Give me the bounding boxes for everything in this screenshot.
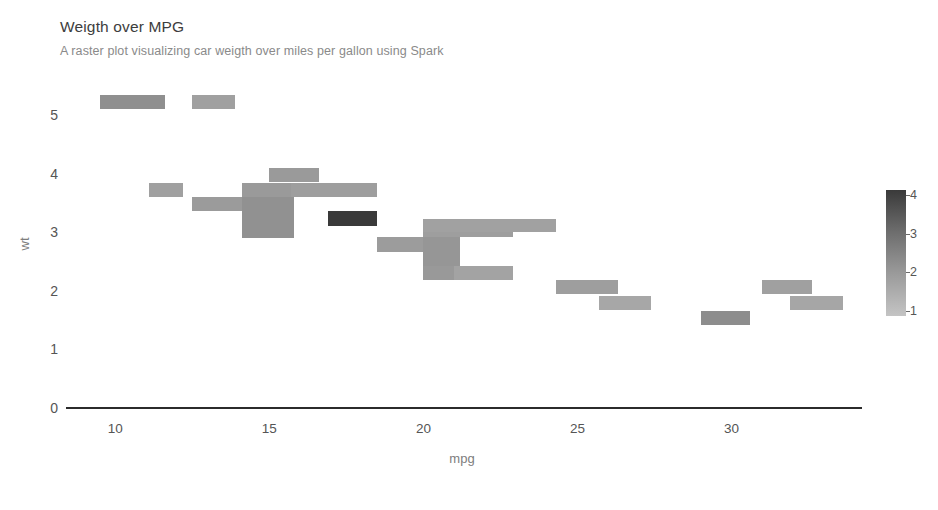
raster-cell: [599, 296, 651, 310]
raster-cell: [192, 95, 235, 109]
raster-cell: [701, 311, 750, 325]
page-title: Weigth over MPG: [60, 18, 184, 36]
legend-tick-label: 2: [910, 265, 917, 279]
x-tick-label: 10: [108, 421, 123, 436]
raster-cell: [790, 296, 842, 310]
chart-page: Weigth over MPG A raster plot visualizin…: [0, 0, 938, 510]
legend-tick-label: 1: [910, 304, 917, 318]
y-tick-label: 2: [50, 283, 58, 299]
raster-cell: [377, 237, 426, 252]
x-tick-label: 15: [262, 421, 277, 436]
x-tick-label: 25: [570, 421, 585, 436]
raster-cell: [762, 280, 811, 293]
raster-cell: [242, 197, 294, 238]
plot-area: [66, 80, 861, 408]
raster-cell: [423, 219, 556, 232]
y-tick-label: 3: [50, 224, 58, 240]
x-tick-label: 30: [724, 421, 739, 436]
y-tick-label: 5: [50, 107, 58, 123]
y-axis-ticks: 012345: [0, 0, 58, 510]
x-axis-line: [66, 407, 862, 409]
raster-cell: [149, 183, 183, 198]
y-tick-label: 1: [50, 341, 58, 357]
raster-cell: [192, 197, 244, 211]
raster-cell: [269, 168, 318, 183]
raster-cell: [454, 266, 513, 280]
raster-tiles: [66, 80, 861, 408]
x-tick-label: 20: [416, 421, 431, 436]
raster-cell: [328, 211, 377, 226]
y-tick-label: 4: [50, 166, 58, 182]
raster-cell: [556, 280, 618, 293]
y-axis-title: wt: [17, 238, 32, 251]
raster-cell: [242, 183, 294, 198]
x-axis-title: mpg: [449, 451, 474, 466]
raster-cell: [423, 237, 460, 266]
raster-cell: [291, 183, 377, 198]
color-legend-gradient: [886, 190, 906, 316]
legend-tick-label: 4: [910, 188, 917, 202]
y-tick-label: 0: [50, 400, 58, 416]
raster-cell: [100, 95, 165, 109]
legend-tick-label: 3: [910, 227, 917, 241]
color-legend: 4321: [886, 190, 932, 318]
page-subtitle: A raster plot visualizing car weigth ove…: [60, 44, 444, 58]
